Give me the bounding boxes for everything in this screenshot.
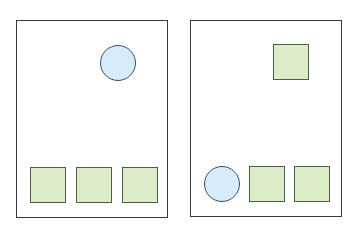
left-panel-square-3 xyxy=(122,167,158,203)
left-panel-square-2 xyxy=(76,167,112,203)
left-panel-square-1 xyxy=(30,167,66,203)
right-panel-square-1 xyxy=(249,166,285,202)
right-panel-square-2 xyxy=(294,166,330,202)
right-panel-circle xyxy=(204,166,240,202)
left-panel-circle xyxy=(100,45,136,81)
right-panel-square-top xyxy=(273,44,309,80)
